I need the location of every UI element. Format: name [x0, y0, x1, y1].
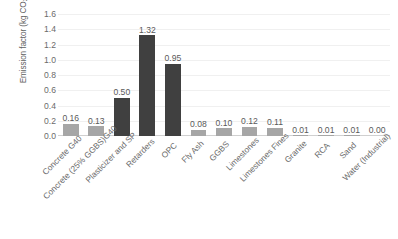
y-axis-title: Emission factor (kg CO2e q/kg)	[19, 0, 28, 99]
bar[interactable]: 0.10	[216, 128, 232, 136]
bar-value-label: 0.50	[113, 88, 130, 97]
bar-slot: 0.12	[237, 14, 263, 136]
y-tick-label: 0.6	[44, 86, 56, 95]
bar-slot: 0.11	[262, 14, 288, 136]
x-category-label: GGBS	[207, 139, 231, 163]
x-category-label: OPC	[159, 140, 179, 160]
bar-value-label: 0.95	[165, 54, 182, 63]
bar-value-label: 0.11	[267, 118, 283, 127]
y-tick-label: 1.0	[44, 55, 56, 64]
y-tick-label: 1.6	[44, 10, 56, 19]
plot-area: 0.160.130.501.320.950.080.100.120.110.01…	[58, 14, 390, 136]
y-tick-label: 1.4	[44, 25, 56, 34]
bar-slot: 0.00	[364, 14, 390, 136]
y-axis-title-subscript: 2	[21, 0, 28, 1]
bar-value-label: 0.10	[216, 119, 233, 128]
bar-value-label: 0.12	[241, 117, 258, 126]
bar-slot: 0.08	[186, 14, 212, 136]
y-tick-label: 0.0	[44, 132, 56, 141]
x-category-label: RCA	[312, 140, 331, 159]
bar-slot: 0.13	[84, 14, 110, 136]
bar-slot: 1.32	[135, 14, 161, 136]
bar[interactable]: 0.95	[165, 64, 181, 136]
bar[interactable]: 1.32	[139, 35, 155, 136]
bar[interactable]: 0.01	[293, 135, 309, 136]
bar-slot: 0.95	[160, 14, 186, 136]
bar-slot: 0.50	[109, 14, 135, 136]
x-axis-category-labels: Concrete G40Concrete (25% GGBS)G40Plasti…	[58, 137, 390, 237]
y-tick-label: 0.8	[44, 71, 56, 80]
x-category-label: Granite	[282, 138, 308, 164]
x-category-label: Fly Ash	[180, 138, 206, 164]
bar-value-label: 0.08	[190, 120, 207, 129]
bar-slot: 0.01	[313, 14, 339, 136]
bar-chart: Emission factor (kg CO2e q/kg) 0.00.20.4…	[0, 0, 398, 239]
y-tick-label: 0.4	[44, 101, 56, 110]
y-axis-tick-labels: 0.00.20.40.60.81.01.21.41.6	[34, 14, 56, 136]
bar[interactable]: 0.12	[242, 127, 258, 136]
bar-value-label: 1.32	[139, 26, 156, 35]
bar-value-label: 0.01	[318, 126, 335, 135]
bar[interactable]: 0.08	[191, 130, 207, 136]
bar-slot: 0.01	[339, 14, 365, 136]
bar-slot: 0.10	[211, 14, 237, 136]
bar[interactable]: 0.01	[344, 135, 360, 136]
y-tick-label: 1.2	[44, 40, 56, 49]
bar-value-label: 0.16	[62, 114, 79, 123]
bar-slot: 0.16	[58, 14, 84, 136]
bar-series: 0.160.130.501.320.950.080.100.120.110.01…	[58, 14, 390, 136]
y-axis-title-prefix: Emission factor (kg CO	[19, 1, 28, 83]
x-category-label: Sand	[337, 140, 358, 161]
bar-value-label: 0.13	[88, 117, 105, 126]
bar[interactable]: 0.01	[318, 135, 334, 136]
bar-value-label: 0.01	[292, 126, 309, 135]
y-tick-label: 0.2	[44, 116, 56, 125]
bar-slot: 0.01	[288, 14, 314, 136]
bar-value-label: 0.01	[343, 126, 360, 135]
